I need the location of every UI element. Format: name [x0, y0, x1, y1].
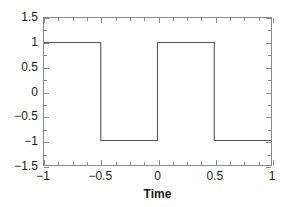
plot-area	[43, 17, 272, 166]
y-axis-tick-major	[266, 142, 271, 143]
x-axis-tick-minor	[73, 18, 74, 21]
y-axis-tick-major	[44, 93, 49, 94]
y-axis-tick-major	[266, 117, 271, 118]
x-axis-tick-major	[101, 160, 102, 165]
y-axis-tick-major	[44, 68, 49, 69]
x-axis-tick-label: 1	[269, 170, 276, 182]
x-axis-tick-minor	[259, 162, 260, 165]
x-axis-tick-minor	[58, 18, 59, 21]
x-axis-tick-major	[101, 18, 102, 23]
series-layer	[44, 18, 271, 165]
x-axis-tick-major	[216, 18, 217, 23]
y-axis-tick-major	[266, 68, 271, 69]
x-axis-tick-minor	[244, 162, 245, 165]
x-axis-tick-minor	[116, 18, 117, 21]
y-axis-tick-major	[266, 18, 271, 19]
x-axis-tick-minor	[73, 162, 74, 165]
y-axis-tick-major	[44, 43, 49, 44]
y-axis-tick-minor	[268, 30, 271, 31]
x-axis-tick-minor	[187, 18, 188, 21]
x-axis-tick-minor	[130, 162, 131, 165]
x-axis-tick-minor	[173, 162, 174, 165]
x-axis-tick-label: −1	[36, 170, 50, 182]
x-axis-tick-minor	[58, 162, 59, 165]
x-axis-tick-minor	[144, 162, 145, 165]
x-axis-tick-label: −0.5	[88, 170, 112, 182]
y-axis-tick-minor	[44, 155, 47, 156]
y-axis-tick-label: 0	[31, 86, 38, 98]
x-axis-tick-major	[44, 18, 45, 23]
x-axis-tick-label: 0.5	[206, 170, 223, 182]
x-axis-tick-minor	[259, 18, 260, 21]
x-axis-tick-minor	[201, 162, 202, 165]
y-axis-tick-label: −1.5	[14, 160, 38, 172]
y-axis-tick-label: 1	[31, 36, 38, 48]
y-axis-tick-labels: 1.510.50−0.5−1−1.5	[0, 17, 38, 166]
x-axis-tick-labels: −1−0.500.51	[43, 170, 272, 186]
figure-container: 1.510.50−0.5−1−1.5 −1−0.500.51 Time	[0, 0, 289, 207]
x-axis-tick-minor	[87, 18, 88, 21]
y-axis-tick-label: 1.5	[21, 11, 38, 23]
y-axis-tick-major	[44, 142, 49, 143]
series-line	[44, 42, 271, 140]
x-axis-tick-minor	[244, 18, 245, 21]
x-axis-tick-minor	[187, 162, 188, 165]
x-axis-tick-minor	[173, 18, 174, 21]
y-axis-tick-minor	[44, 55, 47, 56]
y-axis-tick-minor	[268, 55, 271, 56]
y-axis-tick-label: −0.5	[14, 110, 38, 122]
x-axis-tick-major	[44, 160, 45, 165]
y-axis-tick-label: 0.5	[21, 61, 38, 73]
y-axis-tick-major	[266, 43, 271, 44]
y-axis-tick-minor	[44, 130, 47, 131]
x-axis-tick-minor	[230, 162, 231, 165]
y-axis-tick-minor	[268, 80, 271, 81]
x-axis-tick-minor	[230, 18, 231, 21]
x-axis-tick-minor	[130, 18, 131, 21]
y-axis-tick-minor	[44, 30, 47, 31]
x-axis-tick-minor	[144, 18, 145, 21]
x-axis-tick-major	[159, 160, 160, 165]
y-axis-tick-minor	[268, 155, 271, 156]
x-axis-title: Time	[43, 188, 272, 200]
y-axis-tick-label: −1	[24, 135, 38, 147]
x-axis-tick-minor	[201, 18, 202, 21]
y-axis-tick-major	[266, 93, 271, 94]
x-axis-tick-label: 0	[154, 170, 161, 182]
y-axis-tick-major	[44, 167, 49, 168]
x-axis-tick-minor	[116, 162, 117, 165]
y-axis-tick-major	[44, 117, 49, 118]
x-axis-tick-major	[159, 18, 160, 23]
x-axis-tick-minor	[87, 162, 88, 165]
x-axis-tick-major	[273, 160, 274, 165]
y-axis-tick-major	[266, 167, 271, 168]
x-axis-tick-major	[273, 18, 274, 23]
y-axis-tick-minor	[268, 130, 271, 131]
y-axis-tick-minor	[268, 105, 271, 106]
y-axis-tick-minor	[44, 105, 47, 106]
y-axis-tick-minor	[44, 80, 47, 81]
x-axis-tick-major	[216, 160, 217, 165]
